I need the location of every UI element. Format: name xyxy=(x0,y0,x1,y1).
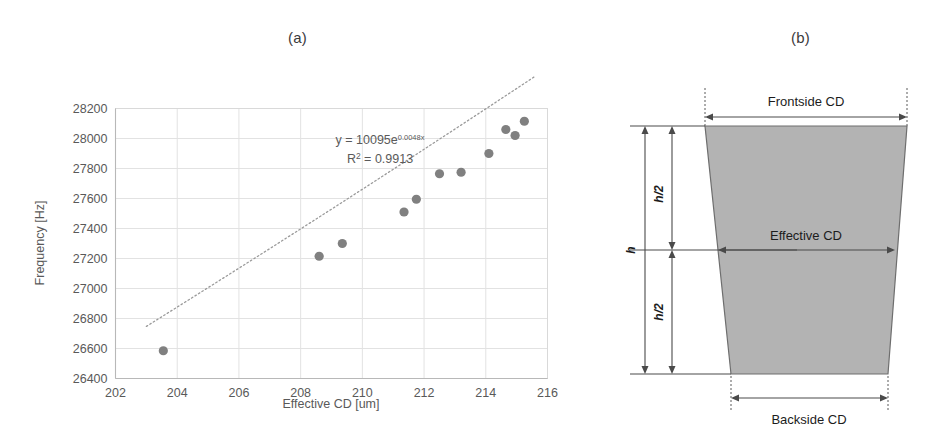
data-point xyxy=(484,149,493,158)
cross-section-diagram-svg: Frontside CD h h/2 h/2 Effective CD xyxy=(600,0,933,448)
data-point xyxy=(159,346,168,355)
trendline-r-squared: R2 = 0.9913 xyxy=(347,151,413,166)
x-tick-label: 214 xyxy=(475,386,496,400)
data-point xyxy=(501,125,510,134)
h-label: h xyxy=(624,246,638,253)
x-tick-label: 202 xyxy=(105,386,126,400)
y-tick-label: 27200 xyxy=(73,252,108,266)
y-tick-label: 27600 xyxy=(73,192,108,206)
diagram-panel-b: Frontside CD h h/2 h/2 Effective CD xyxy=(600,0,933,448)
data-point xyxy=(315,252,324,261)
y-tick-label: 27400 xyxy=(73,222,108,236)
x-tick-label: 216 xyxy=(537,386,558,400)
h-half-bottom-down-arrowhead xyxy=(669,366,676,374)
data-points-group xyxy=(159,117,529,356)
y-tick-label: 28000 xyxy=(73,132,108,146)
y-gridlines xyxy=(116,109,548,379)
effective-cd-label: Effective CD xyxy=(770,228,842,243)
x-axis-title: Effective CD [um] xyxy=(282,397,379,411)
y-tick-label: 27800 xyxy=(73,162,108,176)
scatter-chart-svg: 2640026600268002700027200274002760027800… xyxy=(0,0,600,448)
frontside-right-arrowhead xyxy=(899,114,907,121)
h-top-arrowhead xyxy=(642,126,649,134)
h-half-bottom-label: h/2 xyxy=(652,303,666,321)
y-axis-title: Frequency [Hz] xyxy=(33,201,47,286)
backside-left-arrowhead xyxy=(731,395,739,402)
y-tick-label: 26600 xyxy=(73,342,108,356)
h-half-top-up-arrowhead xyxy=(669,126,676,134)
data-point xyxy=(520,117,529,126)
chart-panel-a: 2640026600268002700027200274002760027800… xyxy=(0,0,600,448)
data-point xyxy=(338,239,347,248)
h-half-top-label: h/2 xyxy=(652,185,666,203)
y-tick-label: 26800 xyxy=(73,312,108,326)
data-point xyxy=(399,207,408,216)
frontside-cd-label: Frontside CD xyxy=(768,94,845,109)
y-axis-tick-labels: 2640026600268002700027200274002760027800… xyxy=(73,102,108,386)
data-point xyxy=(435,169,444,178)
x-tick-label: 212 xyxy=(414,386,435,400)
data-point xyxy=(412,195,421,204)
trendline-equation: y = 10095e0.0048x xyxy=(336,133,425,147)
backside-cd-label: Backside CD xyxy=(771,412,846,427)
x-tick-label: 204 xyxy=(167,386,188,400)
backside-right-arrowhead xyxy=(880,395,888,402)
plot-area-border xyxy=(116,109,548,379)
y-tick-label: 26400 xyxy=(73,372,108,386)
h-bottom-arrowhead xyxy=(642,366,649,374)
x-tick-label: 206 xyxy=(228,386,249,400)
y-tick-label: 28200 xyxy=(73,102,108,116)
h-half-top-down-arrowhead xyxy=(669,242,676,250)
data-point xyxy=(510,131,519,140)
x-gridlines xyxy=(116,109,548,379)
data-point xyxy=(457,168,466,177)
frontside-left-arrowhead xyxy=(705,114,713,121)
h-half-bottom-up-arrowhead xyxy=(669,250,676,258)
y-tick-label: 27000 xyxy=(73,282,108,296)
